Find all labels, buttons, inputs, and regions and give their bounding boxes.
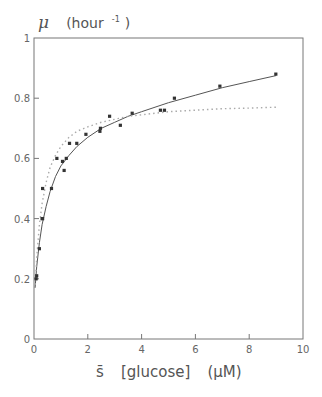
data-point [163, 109, 166, 112]
fit-lines [35, 76, 276, 288]
x-tick-label: 8 [246, 344, 252, 355]
y-tick-label: 0.4 [14, 214, 30, 225]
data-point [61, 160, 64, 163]
x-tick-label: 6 [192, 344, 198, 355]
x-tick-label: 0 [31, 344, 37, 355]
x-tick-label: 4 [138, 344, 144, 355]
x-axis-text: [glucose] [121, 363, 190, 381]
data-point [173, 97, 176, 100]
y-tick-label: 0 [24, 334, 30, 345]
chart: 0246810 00.20.40.60.81 μ (hour -1 ) s̄ [… [0, 0, 322, 397]
y-axis-title: μ (hour -1 ) [38, 7, 130, 32]
data-point [75, 142, 78, 145]
y-axis-symbol: μ [38, 12, 49, 32]
x-tick-label: 10 [297, 344, 310, 355]
plot-frame [34, 38, 303, 339]
data-point [41, 217, 44, 220]
data-point [65, 157, 68, 160]
y-tick-label: 0.2 [14, 274, 30, 285]
data-point [35, 277, 38, 280]
y-axis-unit-prefix: (hour [66, 15, 104, 31]
y-tick-label: 0.6 [14, 153, 30, 164]
data-point [84, 133, 87, 136]
x-ticks: 0246810 [31, 334, 310, 355]
series-line-fit-dotted [35, 107, 276, 285]
data-point [63, 169, 66, 172]
x-axis-title: s̄ [glucose] (μM) [96, 362, 242, 381]
series-line-fit-solid [35, 76, 276, 288]
plot-border [34, 38, 303, 339]
data-point [38, 247, 41, 250]
x-axis-symbol: s̄ [96, 363, 104, 381]
y-axis-unit-exp: -1 [112, 15, 120, 24]
x-tick-label: 2 [85, 344, 91, 355]
data-point [99, 127, 102, 130]
data-point [55, 157, 58, 160]
data-point [50, 187, 53, 190]
data-point [98, 130, 101, 133]
x-axis-unit: (μM) [207, 363, 241, 381]
data-point [68, 142, 71, 145]
data-point [35, 274, 38, 277]
data-point [108, 115, 111, 118]
data-point [159, 109, 162, 112]
y-tick-label: 1 [24, 33, 30, 44]
data-point [274, 73, 277, 76]
data-point [131, 112, 134, 115]
data-point [41, 187, 44, 190]
y-ticks: 00.20.40.60.81 [14, 33, 39, 345]
y-tick-label: 0.8 [14, 93, 30, 104]
y-axis-unit-suffix: ) [125, 15, 130, 31]
data-point [119, 124, 122, 127]
data-points [35, 73, 278, 281]
data-point [218, 85, 221, 88]
